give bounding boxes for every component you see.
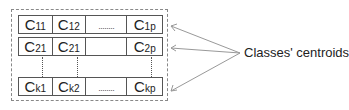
- classes-centroids-label: Classes' centroids: [244, 45, 349, 60]
